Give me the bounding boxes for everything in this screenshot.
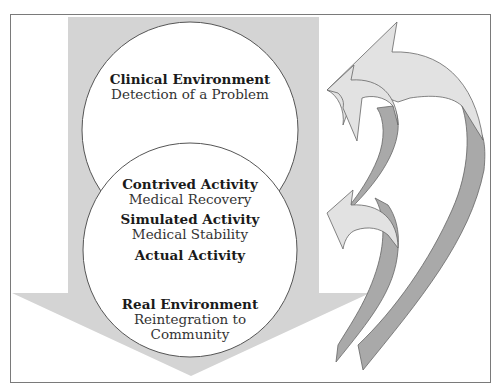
simulated-activity-title: Simulated Activity [90,212,290,227]
clinical-environment-title: Clinical Environment [90,72,290,87]
large-feedback-arrow-tail [358,106,485,370]
actual-activity-title: Actual Activity [90,248,290,263]
contrived-activity-label: Contrived Activity Medical Recovery [90,177,290,207]
simulated-activity-label: Simulated Activity Medical Stability [90,212,290,242]
simulated-activity-subtitle: Medical Stability [90,227,290,242]
real-environment-label: Real Environment Reintegration to Commun… [90,297,290,342]
contrived-activity-subtitle: Medical Recovery [90,192,290,207]
real-environment-subtitle-line2: Community [90,327,290,342]
clinical-environment-label: Clinical Environment Detection of a Prob… [90,72,290,102]
clinical-environment-subtitle: Detection of a Problem [90,87,290,102]
actual-activity-label: Actual Activity [90,248,290,263]
contrived-activity-title: Contrived Activity [90,177,290,192]
real-environment-subtitle-line1: Reintegration to [90,312,290,327]
real-environment-title: Real Environment [90,297,290,312]
